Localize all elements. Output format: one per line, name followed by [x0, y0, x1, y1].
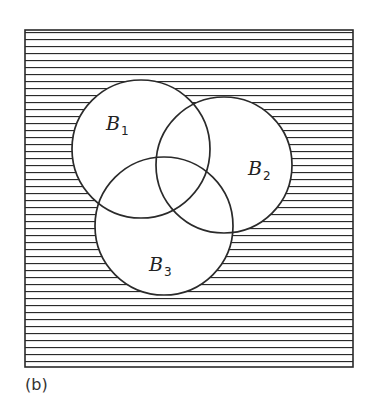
figure-caption: (b) — [25, 375, 48, 394]
venn-diagram: B1 B2 B3 — [0, 0, 378, 410]
